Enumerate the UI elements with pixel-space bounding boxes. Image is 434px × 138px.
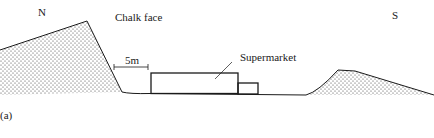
scale-label: 5m xyxy=(125,55,139,66)
chalk-hill-north xyxy=(0,21,122,95)
supermarket-building xyxy=(151,73,258,94)
hill-south xyxy=(306,70,434,95)
supermarket-label: Supermarket xyxy=(240,52,296,63)
cross-section-drawing xyxy=(0,0,434,138)
south-label: S xyxy=(392,10,398,21)
panel-label: (a) xyxy=(0,110,12,121)
north-label: N xyxy=(38,7,46,18)
cross-section-diagram: N Chalk face 5m Supermarket S (a) xyxy=(0,0,434,138)
supermarket-leader-line xyxy=(215,62,232,79)
chalk-face-label: Chalk face xyxy=(115,12,162,23)
